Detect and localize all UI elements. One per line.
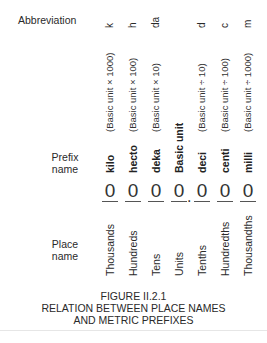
decimal-point: . [187, 188, 191, 206]
place-tens: Tens [150, 254, 162, 276]
bottom-divider [0, 330, 267, 331]
digit-thousandths: 0 [240, 181, 256, 202]
digit-units: 0 [171, 181, 187, 202]
figure-caption-line1: RELATION BETWEEN PLACE NAMES [0, 302, 267, 314]
prefix-label-line1: Prefix [45, 151, 85, 163]
abbr-deci: d [196, 22, 207, 28]
definition-hecto: (Basic unit × 100) [127, 58, 138, 132]
abbr-centi: c [219, 23, 230, 28]
prefix-row-label: Prefix name [45, 151, 85, 175]
definition-milli: (Basic unit ÷ 1000) [242, 53, 253, 132]
prefix-centi: centi [219, 148, 231, 173]
definition-kilo: (Basic unit × 1000) [104, 53, 115, 132]
place-hundredths: Hundredths [219, 222, 231, 276]
digit-hundreds: 0 [125, 181, 141, 202]
abbreviation-row-label: Abbreviation [18, 14, 76, 26]
place-label-line2: name [45, 250, 85, 262]
place-row-label: Place name [45, 238, 85, 262]
prefix-hecto: hecto [127, 145, 139, 173]
place-tenths: Tenths [196, 245, 208, 276]
figure-number: FIGURE II.2.1 [0, 290, 267, 302]
prefix-label-line2: name [45, 163, 85, 175]
abbr-hecto: h [127, 22, 138, 28]
figure-caption-line2: AND METRIC PREFIXES [0, 314, 267, 326]
place-hundreds: Hundreds [127, 230, 139, 276]
abbr-deka: da [150, 17, 161, 28]
prefix-milli: milli [242, 152, 254, 173]
abbr-milli: m [242, 20, 253, 28]
digit-tens: 0 [148, 181, 164, 202]
definition-centi: (Basic unit ÷ 100) [219, 58, 230, 132]
definition-deci: (Basic unit ÷ 10) [196, 63, 207, 132]
definition-deka: (Basic unit × 10) [150, 63, 161, 132]
digit-thousands: 0 [102, 181, 118, 202]
prefix-deka: deka [150, 149, 162, 173]
digit-tenths: 0 [194, 181, 210, 202]
digit-hundredths: 0 [217, 181, 233, 202]
place-label-line1: Place [45, 238, 85, 250]
prefix-deci: deci [196, 152, 208, 173]
prefix-basic-unit: Basic unit [173, 123, 185, 173]
place-units: Units [173, 252, 185, 276]
place-thousands: Thousands [104, 224, 116, 276]
prefix-kilo: kilo [104, 155, 116, 173]
place-thousandths: Thousandths [242, 215, 254, 276]
abbr-kilo: k [104, 23, 115, 28]
